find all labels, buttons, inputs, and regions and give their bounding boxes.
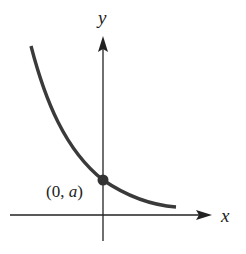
point-label-open: (0, bbox=[46, 182, 69, 201]
exponential-graph: x y (0, a) bbox=[0, 0, 246, 254]
y-intercept-point bbox=[98, 175, 109, 186]
point-label-close: ) bbox=[77, 182, 83, 201]
y-axis-label: y bbox=[96, 7, 107, 28]
y-axis: y bbox=[96, 7, 108, 241]
x-axis-label: x bbox=[220, 205, 230, 226]
point-label-var: a bbox=[69, 182, 78, 201]
x-axis: x bbox=[10, 205, 230, 226]
point-label: (0, a) bbox=[46, 182, 83, 201]
